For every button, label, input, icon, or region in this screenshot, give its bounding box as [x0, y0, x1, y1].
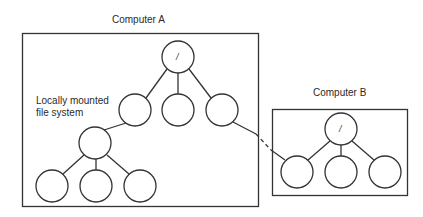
b-leaf-node-2	[325, 156, 357, 188]
a-dir-node-2	[162, 94, 194, 126]
edge	[63, 155, 84, 174]
file-system-diagram: / /	[0, 0, 423, 217]
a-leaf-node-1	[36, 170, 68, 202]
edge	[146, 69, 167, 98]
edge	[104, 123, 126, 130]
b-leaf-node-1	[281, 156, 313, 188]
edge	[308, 141, 330, 160]
a-dir-node-1	[119, 94, 151, 126]
a-subdir-node	[79, 127, 111, 159]
b-leaf-node-3	[369, 156, 401, 188]
mount-link-solid	[233, 122, 256, 134]
edge	[352, 141, 374, 160]
a-leaf-node-2	[80, 170, 112, 202]
edge	[107, 155, 129, 174]
a-mount-point-node	[206, 94, 238, 126]
edge	[189, 69, 211, 98]
a-leaf-node-3	[124, 170, 156, 202]
